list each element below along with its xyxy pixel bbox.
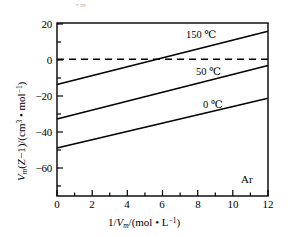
y-axis-title-exp3: 3 — [15, 120, 24, 124]
y-axis-title: Vm(Z−1)/(cm3 • mol−1) — [14, 82, 31, 181]
x-axis-title: 1/Vm/(mol • L−1) — [0, 214, 288, 232]
series-label-0c: 0 ℃ — [203, 99, 223, 110]
gas-species-label: Ar — [241, 174, 253, 185]
x-axis-title-suffix: ) — [176, 216, 180, 228]
y-axis-title-var: V — [15, 174, 27, 181]
series-label-150c: 150 ℃ — [186, 29, 216, 40]
x-tick-label-10: 10 — [223, 199, 243, 210]
y-axis-title-minusone: −1)/(cm — [15, 124, 27, 160]
x-axis-title-unit: /(mol • L — [129, 216, 169, 228]
y-axis-title-close: ) — [15, 82, 27, 86]
y-axis-title-expm1: −1 — [15, 85, 24, 93]
y-axis-title-open: ( — [15, 165, 27, 169]
y-axis-title-sub: m — [20, 169, 29, 174]
x-tick-label-0: 0 — [47, 199, 67, 210]
series-line-150c — [57, 31, 268, 84]
series-line-0c — [57, 98, 268, 148]
x-tick-label-12: 12 — [258, 199, 278, 210]
plot-canvas — [0, 0, 288, 237]
y-axis-title-middle: • mol — [15, 93, 27, 119]
y-tick-label-20: 20 — [26, 19, 52, 30]
series-label-50c: 50 ℃ — [196, 66, 221, 77]
x-tick-label-2: 2 — [82, 199, 102, 210]
x-tick-label-8: 8 — [188, 199, 208, 210]
plot-frame — [57, 23, 268, 196]
y-axis-ticks — [57, 24, 63, 186]
y-axis-title-z: Z — [15, 159, 27, 165]
chart-figure: • m — [0, 0, 288, 237]
x-axis-ticks — [57, 190, 268, 196]
y-tick-label-0: 0 — [26, 55, 52, 66]
x-tick-label-4: 4 — [117, 199, 137, 210]
x-tick-label-6: 6 — [152, 199, 172, 210]
series-line-50c — [57, 66, 268, 119]
